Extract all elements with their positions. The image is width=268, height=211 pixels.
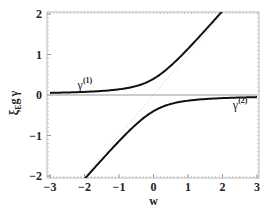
series-group bbox=[50, 11, 257, 179]
major-ticks bbox=[47, 14, 257, 178]
y-tick-label: −2 bbox=[29, 169, 42, 183]
x-tick-label: −1 bbox=[113, 180, 126, 194]
y-tick-label: 0 bbox=[36, 88, 42, 102]
y-tick-labels: −2−1012 bbox=[29, 7, 42, 183]
x-tick-label: 3 bbox=[254, 180, 260, 194]
y-tick-label: 1 bbox=[36, 48, 42, 62]
x-tick-label: −2 bbox=[78, 180, 91, 194]
chart: −3−2−10123 −2−1012 γ(1)γ(2) w ξEgγ bbox=[0, 0, 268, 211]
x-tick-label: 2 bbox=[220, 180, 226, 194]
label-gamma-2: γ(2) bbox=[232, 96, 248, 112]
x-tick-label: −3 bbox=[44, 180, 57, 194]
y-axis-label: ξEgγ bbox=[7, 90, 23, 115]
x-axis-label: w bbox=[149, 194, 158, 208]
x-tick-label: 0 bbox=[151, 180, 157, 194]
series-gamma-1-line bbox=[50, 11, 223, 93]
x-tick-labels: −3−2−10123 bbox=[44, 180, 260, 194]
y-tick-label: −1 bbox=[29, 129, 42, 143]
y-tick-label: 2 bbox=[36, 7, 42, 21]
series-gamma-2-line bbox=[85, 97, 258, 179]
label-gamma-1: γ(1) bbox=[77, 76, 93, 92]
x-tick-label: 1 bbox=[185, 180, 191, 194]
y-axis-label-text: ξEgγ bbox=[7, 90, 23, 115]
